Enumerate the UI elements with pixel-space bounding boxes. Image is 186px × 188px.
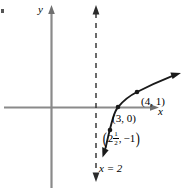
- y-axis-label: y: [38, 4, 43, 15]
- x-axis: [4, 104, 159, 110]
- vertical-asymptote-line: [93, 5, 100, 182]
- plotted-points: [108, 90, 140, 133]
- point-label-4-1: (4, 1): [141, 96, 165, 107]
- x-axis-label: x: [158, 106, 163, 117]
- fraction-numerator: 1: [113, 131, 119, 138]
- mixed-number-group: (212,−1): [102, 130, 141, 147]
- asymptote-label: x = 2: [99, 163, 122, 174]
- point-dot-4-1: [135, 90, 140, 95]
- fraction-denominator: 2: [113, 140, 119, 147]
- point-label-2half-neg1: (212,−1): [102, 130, 141, 147]
- graph-figure: y x (3, 0) (4, 1) (212,−1) x = 2: [0, 0, 186, 188]
- point-dot-3-0: [116, 105, 121, 110]
- close-paren: ): [136, 130, 140, 147]
- point-label-3-0: (3, 0): [112, 113, 136, 124]
- fraction-one-half: 12: [113, 131, 119, 147]
- y-axis: [48, 5, 55, 188]
- mixed-y-part: −1: [121, 133, 135, 144]
- open-paren: (: [103, 130, 107, 147]
- graph-canvas: [0, 0, 186, 188]
